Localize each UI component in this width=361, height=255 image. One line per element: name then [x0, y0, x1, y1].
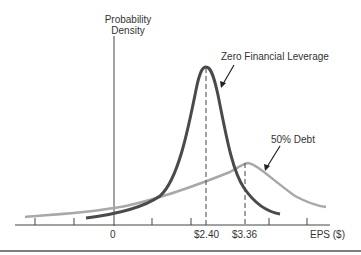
arrow-50-debt: [264, 146, 280, 171]
chart: Probability Density Zero Financial Lever…: [0, 0, 361, 255]
y-axis-label-line2: Density: [98, 25, 158, 36]
series-zero-leverage: [86, 67, 280, 218]
arrow-zero-leverage: [220, 65, 234, 88]
annotation-50-debt: 50% Debt: [271, 134, 315, 145]
chart-plot: [0, 0, 361, 255]
x-axis-label: EPS ($): [310, 229, 345, 240]
y-axis-label-line1: Probability: [98, 14, 158, 25]
x-tick-0: 0: [110, 229, 116, 240]
annotation-zero-leverage: Zero Financial Leverage: [221, 51, 329, 62]
x-tick-3-36: $3.36: [232, 229, 257, 240]
x-tick-2-40: $2.40: [194, 229, 219, 240]
x-axis-ticks: [35, 218, 307, 225]
y-axis-label: Probability Density: [98, 14, 158, 36]
